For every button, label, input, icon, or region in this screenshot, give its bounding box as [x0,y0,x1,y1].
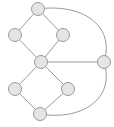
graph-node-bottom [34,108,47,121]
graph-node-top [32,3,45,16]
graph-node-center [35,56,48,69]
graph-edge-top-right [38,8,106,62]
graph-node-upper-right [57,29,70,42]
graph-canvas [0,0,114,127]
graph-canvas-container [0,0,114,127]
graph-node-right [98,56,111,69]
graph-node-lower-left [9,83,22,96]
graph-node-lower-right [62,83,75,96]
graph-node-upper-left [9,29,22,42]
